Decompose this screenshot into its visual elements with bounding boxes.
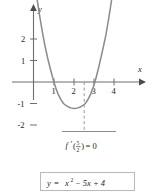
y-axis-arrowhead	[30, 4, 37, 11]
annotation-equals-zero: = 0	[86, 141, 97, 151]
equation-svg: y = x 2 − 5x + 4	[44, 174, 132, 190]
equation-lhs: y	[46, 178, 51, 188]
parabola-plot: x y 1 2 3 4 2 1 -1 -2 f ′ (	[0, 0, 153, 170]
figure-container: x y 1 2 3 4 2 1 -1 -2 f ′ (	[0, 0, 153, 196]
equation-equals: =	[54, 178, 59, 188]
annotation-denominator: 2	[77, 147, 80, 153]
annotation-paren-open: (	[73, 141, 76, 151]
y-tick-label-1: 1	[21, 56, 25, 66]
derivative-annotation: f ′ ( 5 2 ) = 0	[66, 139, 97, 154]
x-axis-label: x	[137, 64, 142, 74]
equation-box: y = x 2 − 5x + 4	[40, 172, 135, 191]
x-tick-label-4: 4	[112, 86, 117, 96]
equation-rest: − 5x + 4	[75, 178, 106, 188]
x-tick-label-2: 2	[72, 86, 76, 96]
equation-exponent: 2	[70, 177, 73, 183]
equation-term1: x	[64, 178, 69, 188]
y-tick-label-2: 2	[21, 34, 25, 44]
annotation-paren-close: )	[81, 141, 84, 151]
annotation-numerator: 5	[77, 140, 80, 146]
x-axis-arrowhead	[139, 79, 146, 86]
y-tick-label-neg1: -1	[18, 99, 25, 109]
annotation-f: f	[66, 140, 70, 150]
y-tick-label-neg2: -2	[18, 120, 25, 130]
annotation-prime: ′	[70, 139, 72, 149]
